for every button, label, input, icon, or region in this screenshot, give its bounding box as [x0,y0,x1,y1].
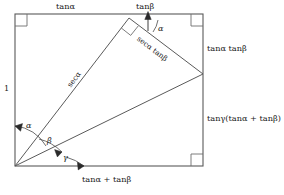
right-angle-marker-bottom-right [191,154,203,166]
arrow-head-tan-beta [145,12,151,20]
label-angle-alpha-apex: α [158,24,164,32]
label-angle-beta-origin: β [47,136,52,144]
label-tan-beta-arrow: tanβ [136,2,154,10]
label-bottom-side: tanα + tanβ [82,175,131,183]
geometry-figure: tanα tanβ 1 tanα tanβ tanγ(tanα + tanβ) … [0,0,284,195]
label-left-side-unit: 1 [4,84,9,92]
figure-canvas [0,0,284,195]
label-top-left-side: tanα [56,2,75,10]
line-sec-alpha [15,18,129,166]
bounding-rectangle [15,14,203,166]
right-angle-marker-apex [121,26,138,35]
label-right-lower: tanγ(tanα + tanβ) [207,114,281,122]
right-angle-marker-top-right [191,14,203,26]
label-angle-gamma-origin: γ [63,153,68,161]
angle-arrow-alpha-origin [15,124,23,132]
label-angle-alpha-origin: α [26,121,32,129]
label-right-upper: tanα tanβ [207,44,247,52]
right-angle-marker-top-left [15,14,27,26]
line-origin-to-right-point [15,74,203,166]
